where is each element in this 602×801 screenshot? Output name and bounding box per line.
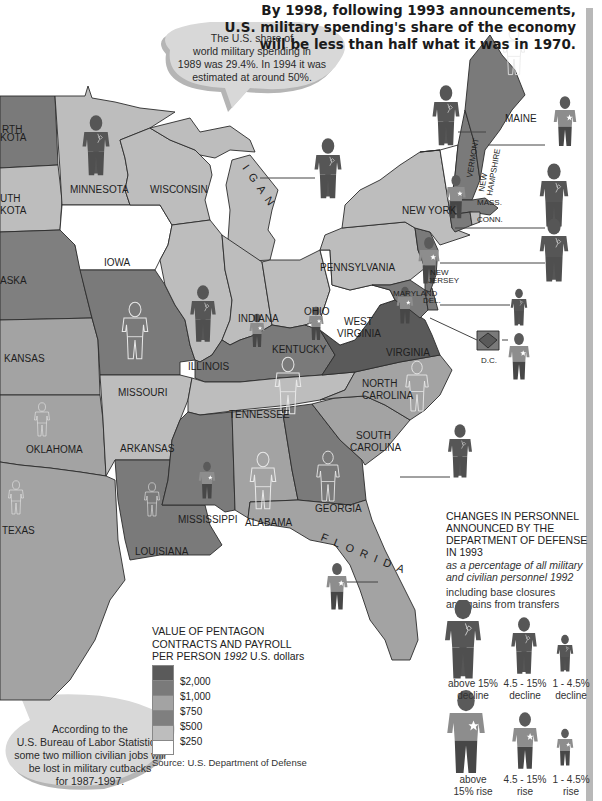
label-minnesota: MINNESOTA [70, 184, 129, 195]
label-louisiana: LOUISIANA [135, 546, 189, 557]
value-label-2000: $2,000 [180, 676, 211, 687]
top-callout-line: 1989 was 29.4%. In 1994 it was [162, 58, 342, 71]
label-new-jersey-2: JERSEY [428, 276, 460, 285]
label-north-carolina-2: CAROLINA [362, 390, 413, 401]
label-iowa: IOWA [104, 257, 131, 268]
label-nebraska: ASKA [0, 275, 27, 286]
category-label-decline-small: 1 - 4.5%decline [546, 678, 596, 702]
value-label-750: $750 [180, 706, 202, 717]
top-callout-line: world military spending in [162, 45, 342, 58]
value-label-500: $500 [180, 721, 202, 732]
label-oklahoma: OKLAHOMA [26, 444, 83, 455]
label-indiana: INDIANA [238, 313, 279, 324]
figure-decline-small [557, 635, 574, 672]
figure-rise-medium [512, 712, 538, 769]
infographic: RTH KOTA UTH KOTA ASKA KANSAS OKLAHOMA T… [0, 0, 602, 801]
bottom-callout-line: According to the [10, 723, 170, 736]
label-west-virginia-2: VIRGINIA [337, 328, 381, 339]
figure-rise-small [557, 729, 574, 766]
label-georgia: GEORGIA [315, 503, 362, 514]
label-south-dakota-2: KOTA [0, 205, 27, 216]
swatch-1000 [152, 680, 174, 695]
swatch-500 [152, 710, 174, 725]
swatch-0 [152, 740, 174, 755]
category-label-rise-small: 1 - 4.5%rise [546, 774, 596, 798]
label-dc: D.C. [481, 356, 497, 365]
value-label-1000: $1,000 [180, 691, 211, 702]
figure-decline-medium [511, 617, 537, 674]
label-texas: TEXAS [2, 525, 35, 536]
label-ohio: OHIO [304, 306, 330, 317]
top-callout-text: The U.S. share of world military spendin… [162, 32, 342, 84]
label-wisconsin: WISCONSIN [150, 184, 208, 195]
value-label-250: $250 [180, 736, 202, 747]
state-texas [0, 462, 125, 700]
label-virginia: VIRGINIA [386, 347, 430, 358]
label-delaware: DEL. [423, 296, 441, 305]
label-connecticut: CONN. [477, 215, 503, 224]
label-mississippi: MISSISSIPPI [178, 514, 237, 525]
swatch-750 [152, 695, 174, 710]
top-callout-line: estimated at around 50%. [162, 71, 342, 84]
label-illinois: ILLINOIS [188, 361, 229, 372]
label-maine: MAINE [505, 113, 537, 124]
top-callout-line: The U.S. share of [162, 32, 342, 45]
value-legend-title: VALUE OF PENTAGON CONTRACTS AND PAYROLL … [152, 625, 352, 663]
label-pennsylvania: PENNSYLVANIA [320, 262, 396, 273]
swatch-2000 [152, 665, 174, 680]
label-south-carolina-1: SOUTH [356, 430, 391, 441]
state-oklahoma [0, 395, 106, 476]
bottom-callout-text: According to the U.S. Bureau of Labor St… [10, 723, 170, 788]
bottom-callout-line: for 1987-1997. [10, 775, 170, 788]
label-south-carolina-2: CAROLINA [350, 442, 401, 453]
category-label-rise-medium: 4.5 - 15%rise [497, 774, 553, 798]
label-tennessee: TENNESSEE [229, 409, 290, 420]
figure-decline-large [445, 600, 481, 679]
personnel-legend: CHANGES IN PERSONNEL ANNOUNCED BY THE DE… [446, 510, 596, 610]
swatch-250 [152, 725, 174, 740]
label-missouri: MISSOURI [118, 387, 167, 398]
label-new-york: NEW YORK [402, 205, 457, 216]
figure-rise-large [447, 690, 485, 773]
label-north-carolina-1: NORTH [362, 378, 397, 389]
personnel-legend-title: CHANGES IN PERSONNEL ANNOUNCED BY THE DE… [446, 510, 596, 558]
label-north-dakota-2: KOTA [0, 132, 27, 143]
label-south-dakota-1: UTH [0, 193, 21, 204]
label-kansas: KANSAS [4, 353, 45, 364]
label-kentucky: KENTUCKY [272, 344, 327, 355]
label-west-virginia-1: WEST [344, 316, 373, 327]
bottom-callout-line: U.S. Bureau of Labor Statistics, [10, 736, 170, 749]
value-legend: VALUE OF PENTAGON CONTRACTS AND PAYROLL … [152, 625, 352, 663]
label-arkansas: ARKANSAS [120, 443, 175, 454]
bottom-callout-line: be lost in military cutbacks [10, 762, 170, 775]
source-note: Source: U.S. Department of Defense [152, 757, 307, 768]
label-alabama: ALABAMA [245, 517, 293, 528]
label-new-hampshire-2: HAMPSHIRE [485, 148, 502, 196]
personnel-legend-subtitle: as a percentage of all military and civi… [446, 559, 596, 583]
bottom-callout-line: some two million civilian jobs will [10, 749, 170, 762]
label-massachusetts: MASS. [477, 198, 502, 207]
category-label-decline-medium: 4.5 - 15%decline [497, 678, 553, 702]
value-legend-swatches [152, 665, 174, 755]
headline-line-1: By 1998, following 1993 announcements, [186, 2, 576, 19]
